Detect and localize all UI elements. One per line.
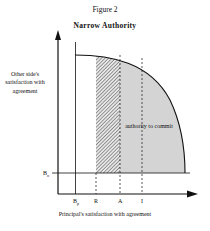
authority-label: authority to commit <box>123 122 175 130</box>
tick-r: R <box>94 198 98 204</box>
y-axis-label: Other side's satisfaction with agreement <box>4 70 46 95</box>
authority-region <box>120 40 200 173</box>
y-axis-arrow-icon <box>55 30 61 40</box>
x-axis-label: Principal's satisfaction with agreement <box>0 211 210 217</box>
tick-i: I <box>141 198 143 204</box>
diagram-canvas <box>0 0 210 231</box>
bo-label: Bo <box>43 170 49 178</box>
x-axis-arrow-icon <box>187 191 198 198</box>
tick-a: A <box>118 198 122 204</box>
tick-bp: Bp <box>73 198 79 206</box>
